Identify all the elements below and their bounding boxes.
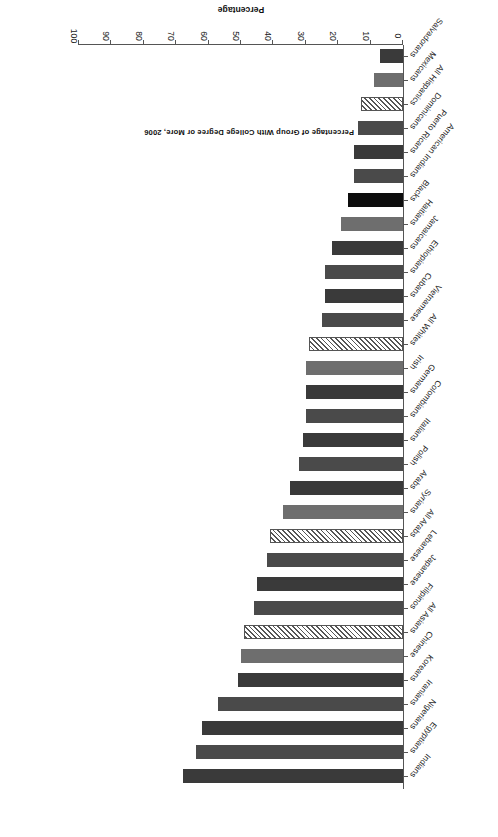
value-tick	[402, 40, 403, 45]
category-label: Italians	[408, 416, 433, 444]
bar	[241, 649, 403, 663]
category-tick	[403, 680, 408, 681]
value-tick-label: 80	[134, 31, 144, 41]
bar	[244, 625, 403, 639]
category-label: Polish	[408, 443, 430, 468]
category-tick	[403, 56, 408, 57]
bar	[322, 313, 403, 327]
figure-rotation-wrapper: Percentage of Group With College Degree …	[0, 0, 498, 837]
category-tick	[403, 176, 408, 177]
value-tick-label: 90	[101, 31, 111, 41]
bar	[270, 529, 403, 543]
category-tick	[403, 656, 408, 657]
category-tick	[403, 152, 408, 153]
value-tick-label: 20	[328, 31, 338, 41]
value-tick-label: 30	[296, 31, 306, 41]
category-tick	[403, 440, 408, 441]
bar	[267, 553, 403, 567]
value-tick-label: 40	[263, 31, 273, 41]
bar	[238, 673, 403, 687]
category-tick	[403, 560, 408, 561]
category-tick	[403, 584, 408, 585]
category-tick	[403, 776, 408, 777]
bar	[341, 217, 403, 231]
bar	[283, 505, 403, 519]
bar	[325, 289, 403, 303]
category-tick	[403, 320, 408, 321]
bar	[361, 97, 403, 111]
bar	[299, 457, 403, 471]
value-axis-title: Percentage	[79, 5, 403, 15]
value-axis-line	[79, 44, 403, 45]
bar	[290, 481, 403, 495]
value-tick-label: 70	[166, 31, 176, 41]
value-tick-label: 50	[231, 31, 241, 41]
bar	[306, 361, 403, 375]
value-tick-label: 10	[361, 31, 371, 41]
category-tick	[403, 752, 408, 753]
category-tick	[403, 224, 408, 225]
category-tick	[403, 248, 408, 249]
category-label: Indians	[408, 752, 433, 780]
bar	[374, 73, 403, 87]
category-tick	[403, 200, 408, 201]
bar	[348, 193, 403, 207]
bar	[354, 145, 403, 159]
bar	[257, 577, 403, 591]
category-tick	[403, 392, 408, 393]
bar	[306, 385, 403, 399]
bar	[303, 433, 403, 447]
category-tick	[403, 128, 408, 129]
value-tick-label: 100	[69, 29, 79, 43]
bar	[254, 601, 403, 615]
bar	[354, 169, 403, 183]
category-tick	[403, 464, 408, 465]
category-tick	[403, 536, 408, 537]
category-tick	[403, 296, 408, 297]
category-tick	[403, 608, 408, 609]
category-tick	[403, 728, 408, 729]
category-tick	[403, 632, 408, 633]
category-tick	[403, 104, 408, 105]
value-axis: Percentage 0102030405060708090100	[79, 1, 403, 45]
bar	[358, 121, 403, 135]
category-tick	[403, 416, 408, 417]
bar	[202, 721, 403, 735]
plot-area: IndiansEgyptiansNigeriansIraniansKoreans…	[79, 45, 403, 789]
bar	[183, 769, 403, 783]
bar	[332, 241, 403, 255]
value-tick-label: 0	[393, 34, 403, 39]
bar	[196, 745, 403, 759]
category-tick	[403, 344, 408, 345]
bar	[380, 49, 403, 63]
category-tick	[403, 512, 408, 513]
category-tick	[403, 704, 408, 705]
bar-chart-figure: Percentage of Group With College Degree …	[0, 0, 498, 837]
category-tick	[403, 80, 408, 81]
bar	[325, 265, 403, 279]
bar	[306, 409, 403, 423]
category-tick	[403, 368, 408, 369]
category-tick	[403, 488, 408, 489]
value-tick-label: 60	[199, 31, 209, 41]
category-tick	[403, 272, 408, 273]
bar	[218, 697, 403, 711]
bar	[309, 337, 403, 351]
